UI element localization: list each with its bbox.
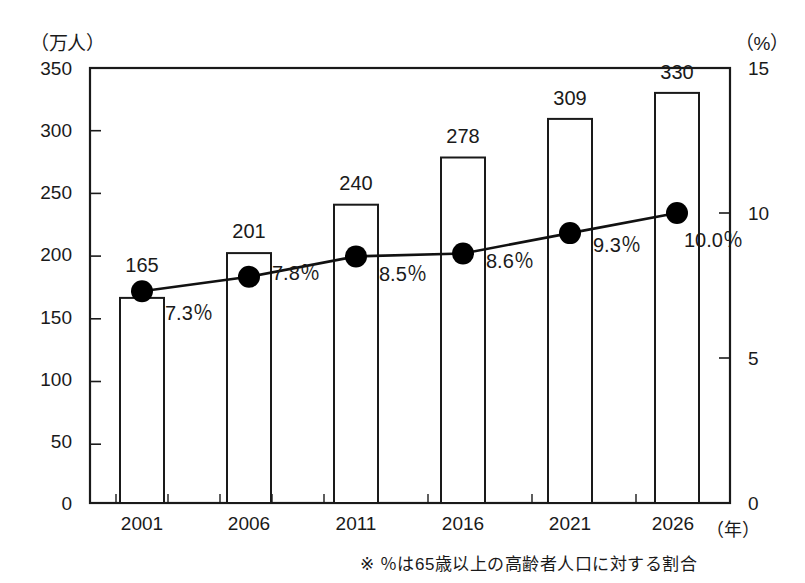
x-axis-label-2021: 2021: [530, 513, 610, 535]
marker-2016: [452, 243, 474, 265]
x-axis-unit-label: （年）: [706, 515, 760, 541]
bar-value-2006: 201: [214, 220, 284, 243]
bar-2021: [548, 119, 592, 503]
pct-value-2016: 8.6％: [486, 245, 534, 274]
marker-2021: [559, 222, 581, 244]
chart-footnote: ※ ％は65歳以上の高齢者人口に対する割合: [360, 550, 697, 575]
bar-value-2026: 330: [642, 61, 712, 84]
x-axis-label-2016: 2016: [423, 513, 503, 535]
pct-value-2001: 7.3％: [165, 297, 213, 326]
left-axis-ticks: [90, 131, 101, 445]
x-axis-label-2026: 2026: [633, 513, 713, 535]
population-forecast-chart: （万人） （%） 350 300 250 200 150 100 50 0 15…: [0, 0, 805, 583]
x-axis-label-2001: 2001: [102, 513, 182, 535]
bar-2006: [227, 253, 271, 503]
plot-canvas: [0, 0, 805, 583]
bar-value-2016: 278: [428, 125, 498, 148]
marker-2001: [131, 280, 153, 302]
marker-2006: [238, 266, 260, 288]
marker-2026: [666, 202, 688, 224]
x-axis-label-2011: 2011: [316, 513, 396, 535]
pct-value-2011: 8.5％: [379, 258, 427, 287]
pct-value-2006: 7.8％: [272, 257, 320, 286]
bar-value-2011: 240: [321, 172, 391, 195]
bar-value-2001: 165: [107, 254, 177, 277]
marker-2011: [345, 245, 367, 267]
bar-value-2021: 309: [535, 87, 605, 110]
pct-value-2026: 10.0％: [684, 224, 743, 253]
pct-value-2021: 9.3％: [593, 229, 641, 258]
bar-2001: [120, 298, 164, 503]
bar-2016: [441, 158, 485, 504]
bar-2026: [655, 93, 699, 503]
x-axis-minor-ticks: [116, 494, 688, 503]
x-axis-label-2006: 2006: [209, 513, 289, 535]
